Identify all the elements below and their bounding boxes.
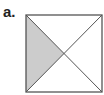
shaded-left-triangle xyxy=(26,15,64,92)
square-diagram xyxy=(0,0,104,95)
